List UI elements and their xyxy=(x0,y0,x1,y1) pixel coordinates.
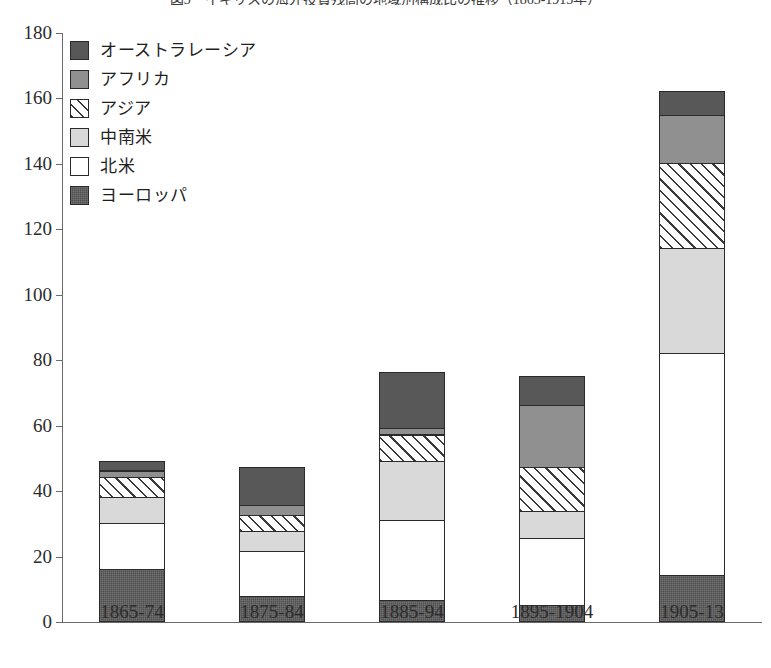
x-axis-line xyxy=(62,622,762,623)
bar-1865-74 xyxy=(99,462,165,622)
y-tick-label: 120 xyxy=(24,219,53,238)
bar-segment-africa xyxy=(99,471,165,479)
stacked-bar-chart-figure: 図3 イギリスの海外投資残高の地域別構成比の推移（1865-1913年） 020… xyxy=(0,0,771,668)
legend-label: 北米 xyxy=(100,157,135,176)
legend-swatch-namerica-icon xyxy=(70,157,89,176)
bar-segment-australasia xyxy=(239,467,305,506)
legend-label: アジア xyxy=(100,99,152,118)
y-tick-label: 180 xyxy=(24,23,53,42)
legend-item-lamerica: 中南米 xyxy=(70,123,330,152)
bar-segment-lamerica xyxy=(659,248,725,354)
bar-segment-australasia xyxy=(659,91,725,117)
bar-1875-84 xyxy=(239,468,305,622)
bar-segment-namerica xyxy=(379,520,445,601)
legend-label: アフリカ xyxy=(100,70,170,89)
legend-swatch-asia-icon xyxy=(70,99,89,118)
y-tick-mark xyxy=(56,426,62,427)
y-tick-mark xyxy=(56,33,62,34)
bar-segment-africa xyxy=(239,505,305,516)
x-axis-label-1875-84: 1875-84 xyxy=(202,601,342,622)
y-tick-label: 40 xyxy=(33,481,52,500)
bar-segment-africa xyxy=(379,428,445,436)
legend-swatch-lamerica-icon xyxy=(70,128,89,147)
y-tick-mark xyxy=(56,98,62,99)
y-tick-label: 140 xyxy=(24,154,53,173)
bar-segment-africa xyxy=(659,115,725,163)
bar-segment-namerica xyxy=(99,523,165,570)
bar-segment-lamerica xyxy=(239,531,305,552)
bar-1895-1904 xyxy=(519,377,585,622)
y-tick-mark xyxy=(56,557,62,558)
y-tick-mark xyxy=(56,295,62,296)
y-tick-mark xyxy=(56,491,62,492)
legend-swatch-europe-icon xyxy=(70,186,89,205)
bar-segment-africa xyxy=(519,405,585,468)
x-axis-label-1885-94: 1885-94 xyxy=(342,601,482,622)
bar-segment-lamerica xyxy=(519,511,585,538)
bar-segment-asia xyxy=(99,477,165,498)
y-tick-mark xyxy=(56,622,62,623)
bar-1905-13 xyxy=(659,92,725,622)
y-tick-label: 80 xyxy=(33,350,52,369)
y-tick-label: 20 xyxy=(33,547,52,566)
bar-segment-lamerica xyxy=(379,461,445,521)
bar-segment-namerica xyxy=(239,551,305,598)
legend-item-australasia: オーストラレーシア xyxy=(70,36,330,65)
bar-segment-asia xyxy=(239,515,305,532)
legend-label: ヨーロッパ xyxy=(100,186,188,205)
y-axis-line xyxy=(62,33,63,622)
y-tick-mark xyxy=(56,229,62,230)
bar-segment-asia xyxy=(519,467,585,512)
legend-label: 中南米 xyxy=(100,128,153,147)
bar-segment-lamerica xyxy=(99,497,165,524)
x-axis-label-1895-1904: 1895-1904 xyxy=(482,601,622,622)
bar-1885-94 xyxy=(379,373,445,622)
legend-item-africa: アフリカ xyxy=(70,65,330,94)
bar-segment-australasia xyxy=(519,376,585,406)
bar-segment-australasia xyxy=(379,372,445,429)
y-tick-label: 60 xyxy=(33,416,52,435)
legend-swatch-africa-icon xyxy=(70,70,89,89)
bar-segment-australasia xyxy=(99,461,165,472)
y-tick-mark xyxy=(56,164,62,165)
bar-segment-namerica xyxy=(519,538,585,606)
y-tick-label: 0 xyxy=(43,612,53,631)
bar-segment-namerica xyxy=(659,353,725,577)
y-tick-mark xyxy=(56,360,62,361)
bar-segment-asia xyxy=(379,435,445,462)
legend-item-europe: ヨーロッパ xyxy=(70,181,330,210)
x-axis-label-1865-74: 1865-74 xyxy=(62,601,202,622)
chart-legend: オーストラレーシアアフリカアジア中南米北米ヨーロッパ xyxy=(70,36,330,210)
y-tick-label: 100 xyxy=(24,285,53,304)
x-axis-label-1905-13: 1905-13 xyxy=(622,601,762,622)
legend-swatch-australasia-icon xyxy=(70,41,89,60)
bar-segment-asia xyxy=(659,163,725,249)
legend-item-asia: アジア xyxy=(70,94,330,123)
figure-caption: 図3 イギリスの海外投資残高の地域別構成比の推移（1865-1913年） xyxy=(0,0,771,5)
y-tick-label: 160 xyxy=(24,88,53,107)
legend-label: オーストラレーシア xyxy=(100,41,257,60)
legend-item-namerica: 北米 xyxy=(70,152,330,181)
